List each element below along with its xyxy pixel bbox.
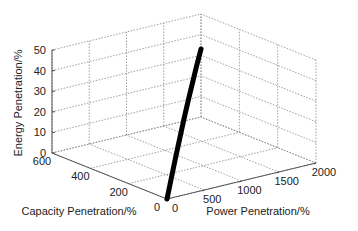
z-tick-label: 10 [34,126,46,138]
side-wall-gridline-horizontal [201,35,316,81]
x-axis-label: Power Penetration/% [206,205,310,217]
y-axis-label: Capacity Penetration/% [22,205,137,217]
grid [52,14,316,199]
z-tick-label: 20 [34,106,46,118]
side-wall-gridline-horizontal [201,55,316,101]
z-axis-label: Energy Penetration/% [12,49,24,156]
y-tick-label: 400 [71,170,89,182]
floor-gridline-power [127,135,242,181]
side-wall-gridline-horizontal [201,117,316,163]
floor-gridline-power [89,144,204,190]
x-tick-label: 0 [172,202,178,214]
side-wall-gridline-horizontal [201,14,316,60]
back-wall-gridline-horizontal [52,76,201,112]
y-tick-label: 200 [109,186,127,198]
side-wall-gridline-horizontal [201,96,316,142]
z-tick-label: 30 [34,85,46,97]
z-tick-label: 50 [34,44,46,56]
x-tick-label: 1000 [237,184,261,196]
z-tick-label: 0 [40,147,46,159]
y-tick-label: 0 [154,201,160,213]
floor-gridline-capacity [129,148,278,184]
floor-gridline-capacity [90,132,239,168]
x-tick-label: 2000 [312,166,336,178]
x-tick-label: 1500 [275,175,299,187]
tick-labels: 0500100015002000020040060001020304050 [33,44,336,214]
z-tick-label: 40 [34,65,46,77]
x-tick-label: 500 [203,193,221,205]
side-wall-gridline-horizontal [201,76,316,122]
3d-line-chart: 0500100015002000020040060001020304050 En… [0,0,358,231]
